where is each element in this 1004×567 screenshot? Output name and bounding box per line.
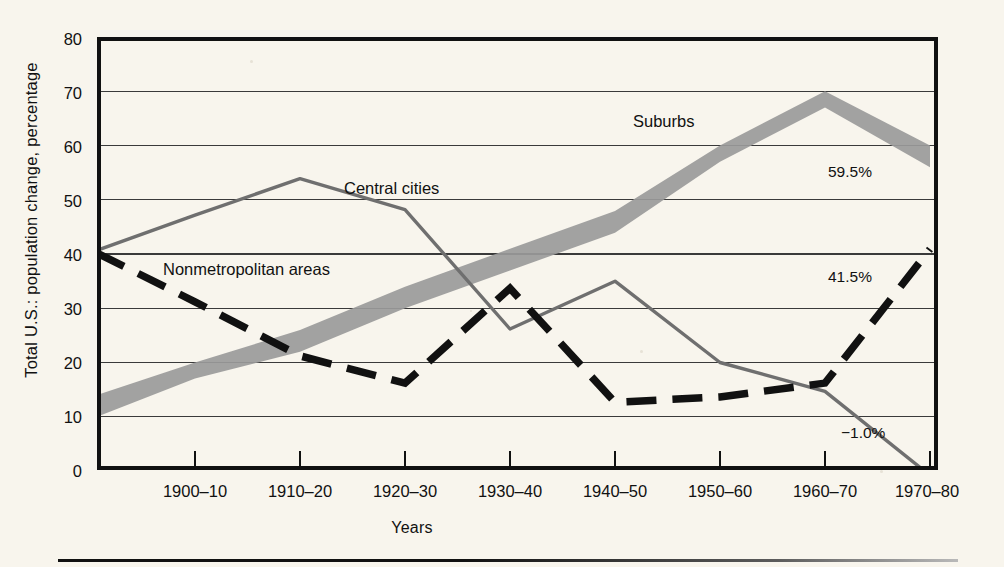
x-tick-label-1950-60: 1950–60: [688, 483, 752, 500]
series-label-suburbs: Suburbs: [633, 113, 694, 130]
series-central-cities-line: [97, 179, 930, 470]
y-tick-label-80: 80: [22, 31, 82, 48]
x-tick-label-1940-50: 1940–50: [583, 483, 647, 500]
y-tick-label-50: 50: [22, 193, 82, 210]
y-tick-label-70: 70: [22, 85, 82, 102]
value-label-nonmetropolitan-end: 41.5%: [828, 269, 872, 285]
x-tick-label-1960-70: 1960–70: [793, 483, 857, 500]
series-label-nonmetropolitan: Nonmetropolitan areas: [163, 261, 330, 278]
x-tick-label-1930-40: 1930–40: [478, 483, 542, 500]
y-tick-label-10: 10: [22, 409, 82, 426]
series-label-central-cities: Central cities: [344, 180, 439, 197]
plot-area: Suburbs Central cities Nonmetropolitan a…: [97, 37, 938, 470]
y-tick-label-20: 20: [22, 355, 82, 372]
scan-speck: [470, 310, 472, 312]
x-axis-title: Years: [0, 519, 1004, 537]
y-tick-label-60: 60: [22, 139, 82, 156]
scan-speck: [250, 60, 253, 63]
y-axis-title: Total U.S.: population change, percentag…: [14, 0, 48, 470]
x-tick-marks: [195, 451, 930, 466]
chart-svg: [97, 37, 938, 470]
scan-speck: [880, 470, 883, 473]
x-axis-title-text: Years: [391, 519, 432, 537]
value-label-suburbs-end: 59.5%: [828, 164, 872, 180]
y-tick-label-0: 0: [22, 463, 82, 480]
scan-speck: [640, 350, 643, 353]
x-tick-label-1920-30: 1920–30: [373, 483, 437, 500]
x-tick-label-1910-20: 1910–20: [268, 483, 332, 500]
value-label-central-cities-end: −1.0%: [841, 425, 885, 441]
y-tick-label-40: 40: [22, 247, 82, 264]
figure-page: Total U.S.: population change, percentag…: [0, 0, 1004, 567]
y-tick-label-30: 30: [22, 301, 82, 318]
x-tick-label-1970-80: 1970–80: [895, 483, 959, 500]
x-tick-label-1900-10: 1900–10: [163, 483, 227, 500]
bottom-divider: [58, 559, 958, 562]
